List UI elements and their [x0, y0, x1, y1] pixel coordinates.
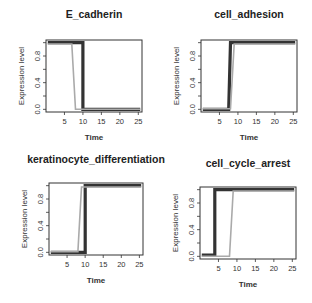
series-dark-line	[202, 190, 294, 255]
x-tick-label: 15	[97, 117, 105, 126]
panel-title: E_cadherin	[66, 8, 123, 20]
y-tick-label: 0.0	[36, 247, 45, 257]
y-tick-label: 0.8	[33, 51, 42, 61]
x-tick-label: 20	[117, 260, 125, 269]
series-gray-line	[51, 187, 141, 252]
x-axis-label: Time	[239, 280, 258, 289]
y-axis-label: Expression level	[172, 47, 181, 105]
y-axis-label: Expression level	[171, 194, 180, 252]
x-tick-label: 20	[270, 264, 278, 273]
x-tick-label: 15	[251, 264, 259, 273]
x-tick-label: 25	[288, 264, 296, 273]
x-tick-label: 5	[65, 260, 69, 269]
y-axis-label: Expression level	[20, 190, 29, 248]
x-tick-label: 25	[134, 117, 142, 126]
x-tick-label: 15	[99, 260, 107, 269]
x-tick-label: 25	[289, 117, 297, 126]
x-tick-label: 25	[135, 260, 143, 269]
y-tick-label: 0.4	[188, 77, 197, 87]
y-tick-label: 0.4	[187, 224, 196, 234]
y-tick-label: 0.8	[36, 194, 45, 204]
series-dark-line	[203, 43, 295, 110]
panel-keratinocyte-differentiation: keratinocyte_differentiation5101520250.0…	[20, 153, 165, 285]
x-tick-label: 20	[116, 117, 124, 126]
x-tick-label: 15	[252, 117, 260, 126]
panel-E-cadherin: E_cadherin5101520250.00.40.8TimeExpressi…	[17, 8, 142, 142]
x-tick-label: 10	[81, 260, 89, 269]
series-gray-line	[48, 44, 140, 109]
plot-frame	[201, 40, 297, 112]
x-axis-label: Time	[85, 133, 104, 142]
plot-frame	[46, 40, 142, 112]
series-dark-line	[48, 43, 140, 110]
panel-title: cell_adhesion	[214, 8, 283, 20]
series-gray-line	[203, 44, 295, 109]
series-dark-line	[51, 186, 141, 253]
panel-title: cell_cycle_arrest	[206, 157, 291, 169]
y-tick-label: 0.4	[33, 77, 42, 87]
x-tick-label: 20	[271, 117, 279, 126]
panel-cell-adhesion: cell_adhesion5101520250.00.40.8TimeExpre…	[172, 8, 297, 142]
y-tick-label: 0.8	[187, 198, 196, 208]
x-axis-label: Time	[240, 133, 259, 142]
y-axis-label: Expression level	[17, 47, 26, 105]
panel-title: keratinocyte_differentiation	[27, 153, 165, 165]
plot-frame	[49, 183, 143, 255]
panel-cell-cycle-arrest: cell_cycle_arrest5101520250.00.40.8TimeE…	[171, 157, 296, 289]
y-tick-label: 0.0	[187, 251, 196, 261]
y-tick-label: 0.0	[188, 104, 197, 114]
y-tick-label: 0.0	[33, 104, 42, 114]
x-tick-label: 10	[234, 117, 242, 126]
y-tick-label: 0.8	[188, 51, 197, 61]
x-tick-label: 10	[79, 117, 87, 126]
x-tick-label: 5	[217, 117, 221, 126]
x-tick-label: 5	[62, 117, 66, 126]
y-tick-label: 0.4	[36, 220, 45, 230]
chart-grid: E_cadherin5101520250.00.40.8TimeExpressi…	[0, 0, 312, 303]
x-tick-label: 10	[233, 264, 241, 273]
x-axis-label: Time	[87, 276, 106, 285]
x-tick-label: 5	[216, 264, 220, 273]
